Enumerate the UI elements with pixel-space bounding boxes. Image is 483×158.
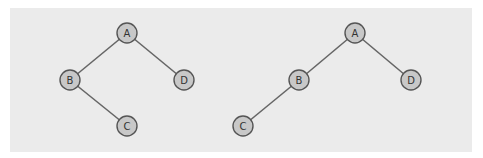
- node-c: C: [233, 116, 253, 136]
- edge-A-D: [127, 33, 184, 80]
- node-label: B: [67, 75, 74, 86]
- node-label: A: [352, 28, 359, 39]
- edge-B-C: [70, 80, 127, 126]
- left-tree: ABDC: [60, 23, 194, 136]
- node-d: D: [401, 70, 421, 90]
- node-label: C: [240, 121, 247, 132]
- node-label: B: [296, 75, 303, 86]
- node-b: B: [289, 70, 309, 90]
- node-c: C: [117, 116, 137, 136]
- node-d: D: [174, 70, 194, 90]
- edge-A-D: [355, 33, 411, 80]
- node-label: D: [180, 75, 188, 86]
- node-label: C: [124, 121, 131, 132]
- edge-A-B: [299, 33, 355, 80]
- edge-B-C: [243, 80, 299, 126]
- node-a: A: [345, 23, 365, 43]
- node-label: A: [124, 28, 131, 39]
- right-tree: ABDC: [233, 23, 421, 136]
- node-label: D: [407, 75, 415, 86]
- edge-A-B: [70, 33, 127, 80]
- node-b: B: [60, 70, 80, 90]
- node-a: A: [117, 23, 137, 43]
- tree-diagrams: ABDCABDC: [0, 0, 483, 158]
